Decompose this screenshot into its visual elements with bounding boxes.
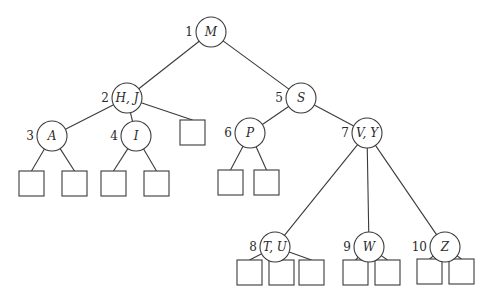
edge bbox=[289, 252, 311, 260]
edge bbox=[284, 145, 357, 236]
tree-node-1: M1 bbox=[185, 17, 226, 47]
node-number: 10 bbox=[412, 240, 427, 254]
leaf-square bbox=[101, 171, 126, 196]
tree-node-3: A3 bbox=[26, 121, 67, 151]
edge bbox=[256, 147, 266, 170]
leaf-square bbox=[299, 260, 324, 285]
edge bbox=[114, 149, 128, 171]
edge bbox=[314, 105, 353, 126]
tree-node-9: W9 bbox=[343, 232, 384, 262]
edge bbox=[139, 41, 199, 88]
node-number: 8 bbox=[249, 240, 257, 254]
node-number: 4 bbox=[110, 129, 118, 143]
edge bbox=[262, 106, 288, 124]
node-key: A bbox=[47, 129, 57, 143]
leaf-square bbox=[417, 259, 442, 284]
node-key: W bbox=[363, 240, 377, 254]
node-key: T, U bbox=[263, 240, 288, 254]
node-number: 9 bbox=[343, 240, 351, 254]
leaf-square bbox=[237, 260, 262, 285]
edge bbox=[32, 149, 45, 171]
node-number: 1 bbox=[185, 25, 193, 39]
b-tree-diagram: M1H, J2S5A3I4P6V, Y7T, U8W9Z10 bbox=[0, 0, 492, 300]
edge bbox=[60, 149, 74, 171]
tree-node-5: S5 bbox=[275, 83, 316, 113]
node-key: Z bbox=[440, 240, 450, 254]
leaf-square bbox=[62, 171, 87, 196]
node-key: H, J bbox=[115, 91, 140, 105]
edge bbox=[144, 149, 157, 171]
edge bbox=[141, 103, 192, 120]
edge bbox=[381, 256, 387, 260]
tree-node-6: P6 bbox=[224, 118, 265, 148]
node-key: P bbox=[245, 126, 255, 140]
node-number: 3 bbox=[26, 129, 34, 143]
edges bbox=[32, 41, 462, 261]
leaf-square bbox=[180, 120, 205, 145]
node-key: I bbox=[133, 129, 139, 143]
node-key: M bbox=[204, 25, 218, 39]
leaf-square bbox=[144, 171, 169, 196]
leaf-square bbox=[343, 260, 368, 285]
leaf-square bbox=[375, 260, 400, 285]
edge bbox=[250, 254, 262, 260]
node-number: 6 bbox=[224, 126, 232, 140]
leaf-square bbox=[269, 260, 294, 285]
edge bbox=[65, 105, 113, 129]
edge bbox=[367, 148, 368, 232]
edge bbox=[130, 113, 132, 122]
node-number: 5 bbox=[275, 91, 283, 105]
node-number: 2 bbox=[101, 91, 109, 105]
node-key: V, Y bbox=[356, 126, 379, 140]
nodes: M1H, J2S5A3I4P6V, Y7T, U8W9Z10 bbox=[26, 17, 460, 262]
leaf-square bbox=[19, 171, 44, 196]
edge bbox=[375, 145, 436, 234]
leaf-square bbox=[218, 170, 243, 195]
edge bbox=[231, 146, 244, 170]
leaf-square bbox=[449, 259, 474, 284]
tree-node-10: Z10 bbox=[412, 232, 460, 262]
node-number: 7 bbox=[341, 126, 349, 140]
edge bbox=[223, 41, 289, 89]
tree-node-4: I4 bbox=[110, 121, 151, 151]
leaf-square bbox=[254, 170, 279, 195]
node-key: S bbox=[297, 91, 305, 105]
